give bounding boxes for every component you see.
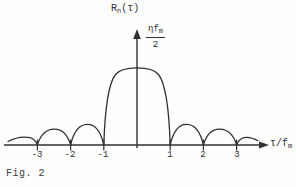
amplitude-numerator: ηfm <box>146 24 165 38</box>
curve-lobe-right-2 <box>203 129 236 145</box>
x-axis-arrowhead <box>259 142 269 149</box>
curve-stub-left <box>8 137 37 145</box>
amplitude-denominator: 2 <box>146 38 165 51</box>
curve-lobe-left-1 <box>71 124 104 145</box>
curve-lobe-right-1 <box>170 124 203 145</box>
curve-lobe-left-2 <box>37 129 70 145</box>
x-tick-label-3: 3 <box>227 150 247 160</box>
x-axis-title: τ/fm <box>270 139 292 150</box>
x-tick-label--1: -1 <box>93 150 113 160</box>
y-axis-arrowhead <box>133 29 141 39</box>
figure-caption: Fig. 2 <box>6 168 45 179</box>
x-tick-label--2: -2 <box>60 150 80 160</box>
amplitude-label: ηfm 2 <box>146 24 165 51</box>
x-tick-label-2: 2 <box>193 150 213 160</box>
x-axis-title-symbol: τ/f <box>270 138 288 149</box>
x-tick-label-1: 1 <box>160 150 180 160</box>
amplitude-numerator-symbol: ηf <box>148 24 159 34</box>
y-axis-title-argument: (τ) <box>121 3 139 14</box>
y-axis-title: Rn(τ) <box>111 4 139 15</box>
figure-container: Rn(τ) ηfm 2 τ/fm -3 -2 -1 1 2 3 Fig. 2 <box>0 0 296 187</box>
x-axis-title-subscript: m <box>288 142 292 150</box>
curve-stub-right <box>237 137 258 145</box>
x-tick-label--3: -3 <box>27 150 47 160</box>
amplitude-numerator-subscript: m <box>159 27 163 35</box>
